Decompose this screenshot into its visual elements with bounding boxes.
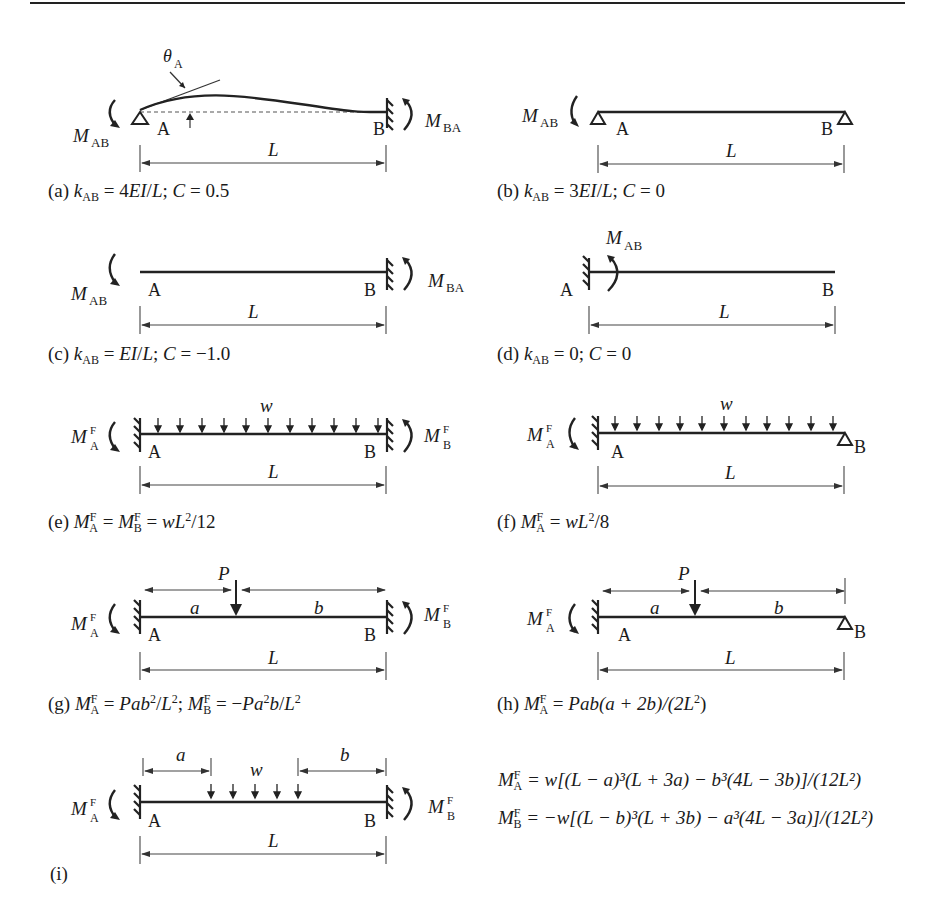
moment-right-sub: BA: [446, 280, 465, 295]
caption-sub: AB: [82, 353, 99, 367]
panel-f-diagram: w M F A A B L: [467, 370, 937, 500]
formula-rhs: = w[(L − a)³(L + 3a) − b³(4L − 3b)]/(12L…: [522, 769, 861, 790]
span-label: L: [267, 461, 279, 482]
caption-text: =: [98, 511, 118, 532]
fixed-support-icon: [583, 256, 589, 290]
caption-text: = −: [211, 693, 242, 714]
arrowhead-icon: [590, 322, 599, 328]
moment-left-label: M: [72, 125, 90, 146]
caption-prefix: (c): [48, 343, 74, 364]
panel-d-diagram: M AB A B L: [467, 200, 937, 340]
arrowhead-icon: [376, 322, 385, 328]
arrowhead-icon: [681, 588, 690, 594]
caption-p: P: [242, 693, 254, 714]
caption-prefix: (e): [48, 511, 74, 532]
moment-right-sub: B: [443, 438, 451, 452]
moment-right-sup: F: [443, 423, 449, 435]
caption-m: M: [74, 511, 90, 532]
caption-text: = 0: [601, 343, 631, 364]
caption-l: L: [578, 511, 589, 532]
moment-left-label: M: [526, 608, 544, 629]
moment-left-sup: F: [90, 424, 96, 436]
moment-right-label: M: [427, 796, 445, 817]
load-label: w: [260, 395, 273, 416]
arrowhead-icon: [110, 278, 120, 286]
dim-a-label: a: [176, 744, 186, 765]
arrowhead-icon: [836, 588, 845, 594]
moment-left-label: M: [70, 426, 88, 447]
moment-left-sub: A: [546, 621, 555, 635]
moment-left-label: M: [70, 283, 88, 304]
caption-sup: 2: [295, 692, 301, 706]
moment-left-label: M: [605, 227, 623, 248]
panel-a-diagram: θ A M AB M BA A B L: [0, 0, 470, 175]
moment-left-sup: F: [546, 606, 552, 618]
moment-left-sub: AB: [89, 293, 107, 308]
moment-left-sub: A: [546, 437, 555, 451]
node-b-label: B: [854, 437, 866, 457]
caption-text: =: [99, 343, 119, 364]
uniform-load-arrows-icon: [612, 416, 836, 430]
arrowhead-icon: [141, 482, 150, 488]
node-a-label: A: [611, 442, 624, 462]
point-load-label: P: [677, 563, 690, 584]
fixed-support-icon: [592, 416, 598, 450]
dim-a-label: a: [650, 597, 660, 618]
caption-i: (i): [50, 863, 68, 885]
caption-sub: AB: [532, 353, 549, 367]
arrowhead-icon: [376, 768, 385, 774]
dim-a-label: a: [190, 597, 200, 618]
span-label: L: [724, 462, 736, 483]
node-a-label: A: [560, 280, 573, 300]
point-load-label: P: [217, 563, 230, 584]
partial-load-arrows-icon: [208, 784, 301, 798]
roller-support-icon: [838, 433, 852, 445]
arrowhead-icon: [141, 160, 150, 166]
node-a-label: A: [148, 280, 161, 300]
caption-text: = −1.0: [176, 343, 231, 364]
caption-prefix: (b): [497, 180, 524, 201]
arrowhead-icon: [602, 588, 611, 594]
arrowhead-icon: [376, 482, 385, 488]
arrowhead-icon: [376, 667, 385, 673]
caption-text: =: [99, 693, 119, 714]
caption-text: = 3: [549, 180, 579, 201]
arrowhead-icon: [599, 161, 608, 167]
load-label: w: [250, 759, 263, 780]
node-b-label: B: [854, 622, 866, 642]
caption-l: L: [602, 180, 613, 201]
caption-c: C: [173, 180, 186, 201]
node-b-label: B: [364, 442, 376, 462]
moment-arrow-icon: [608, 258, 617, 291]
moment-right-sub: B: [447, 809, 455, 823]
caption-w: w: [162, 511, 175, 532]
moment-left-label: M: [526, 424, 544, 445]
caption-m: M: [75, 693, 91, 714]
dim-b-label: b: [314, 597, 324, 618]
node-a-label: A: [148, 811, 161, 831]
formula-rhs: = −w[(L − b)³(L + 3b) − a³(4L − 3a)]/(12…: [522, 807, 874, 828]
node-a-label: A: [616, 119, 629, 139]
arrowhead-icon: [141, 851, 150, 857]
formula-m: M: [498, 807, 514, 828]
arrowhead-icon: [241, 587, 250, 593]
panel-e-diagram: w M F A M F B A B L: [0, 370, 470, 500]
span-label: L: [267, 139, 279, 160]
rotation-sub: A: [174, 57, 183, 71]
node-b-label: B: [364, 625, 376, 645]
caption-prefix: (h): [497, 693, 524, 714]
caption-w: w: [565, 511, 578, 532]
node-b-label: B: [373, 119, 385, 139]
caption-c: C: [589, 343, 602, 364]
panel-i-diagram: a b w M F A M F B A B L: [0, 740, 470, 870]
formula-sub: A: [514, 779, 523, 793]
arrowhead-icon: [144, 768, 153, 774]
node-b-label: B: [364, 280, 376, 300]
moment-left-sub: A: [90, 439, 99, 453]
uniform-load-arrows-icon: [155, 418, 381, 432]
moment-left-sup: F: [546, 422, 552, 434]
arrowhead-icon: [141, 322, 150, 328]
caption-m: M: [521, 511, 537, 532]
arrowhead-icon: [825, 322, 834, 328]
caption-text: ;: [178, 693, 188, 714]
